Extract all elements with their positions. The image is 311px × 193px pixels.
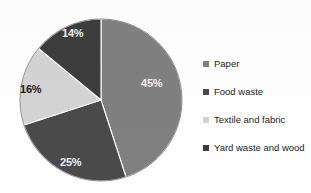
- legend-item[interactable]: Paper: [203, 50, 311, 78]
- legend-swatch-icon: [203, 61, 209, 67]
- pie-slice-value-label: 16%: [20, 84, 41, 95]
- legend-item-label: Paper: [214, 59, 239, 69]
- legend: PaperFood wasteTextile and fabricYard wa…: [203, 50, 311, 162]
- pie-plot-area: 45%25%16%14%: [0, 0, 200, 193]
- legend-item[interactable]: Textile and fabric: [203, 106, 311, 134]
- pie-slice-value-label: 25%: [60, 157, 81, 168]
- legend-item[interactable]: Yard waste and wood: [203, 134, 311, 162]
- legend-item-label: Textile and fabric: [214, 115, 285, 125]
- legend-swatch-icon: [203, 89, 209, 95]
- legend-swatch-icon: [203, 145, 209, 151]
- pie-chart-figure: 45%25%16%14% PaperFood wasteTextile and …: [0, 0, 311, 193]
- pie-slice-value-label: 45%: [141, 78, 162, 89]
- legend-swatch-icon: [203, 117, 209, 123]
- legend-item[interactable]: Food waste: [203, 78, 311, 106]
- pie-slice-value-label: 14%: [62, 28, 83, 39]
- legend-item-label: Yard waste and wood: [214, 143, 305, 153]
- legend-item-label: Food waste: [214, 87, 263, 97]
- pie-svg: [0, 0, 200, 193]
